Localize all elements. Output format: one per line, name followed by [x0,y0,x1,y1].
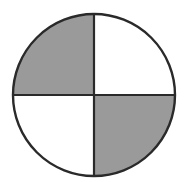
fraction-circle-diagram [0,0,187,182]
